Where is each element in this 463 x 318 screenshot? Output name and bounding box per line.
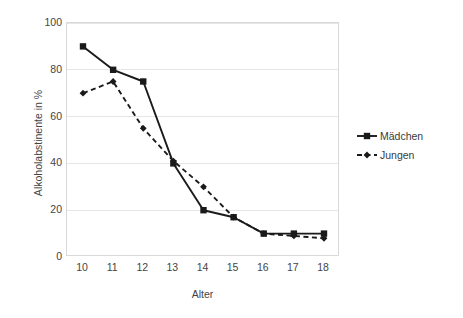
legend-label: Mädchen: [380, 130, 423, 142]
data-point-marker: [200, 207, 206, 213]
x-axis-tick-label: 12: [129, 262, 155, 273]
y-axis-tick-label: 100: [32, 17, 62, 28]
x-axis-tick-label: 16: [250, 262, 276, 273]
legend-marker-diamond-icon: [356, 149, 378, 161]
series-line: [83, 82, 324, 239]
legend-item-jungen[interactable]: Jungen: [356, 145, 460, 164]
data-point-marker: [140, 125, 147, 132]
x-axis-tick-label: 11: [99, 262, 125, 273]
y-axis-tick-label: 60: [32, 110, 62, 121]
data-point-marker: [364, 132, 370, 138]
y-axis-tick-label: 80: [32, 64, 62, 75]
data-point-marker: [110, 67, 116, 73]
series-jungen: [80, 78, 328, 242]
data-point-marker: [80, 90, 87, 97]
x-axis-title: Alter: [66, 288, 339, 300]
x-axis-tick-label: 17: [280, 262, 306, 273]
x-axis-tick-label: 15: [220, 262, 246, 273]
legend-item-mädchen[interactable]: Mädchen: [356, 126, 460, 145]
series-line: [83, 46, 324, 233]
data-point-marker: [80, 43, 86, 49]
x-axis-tick-label: 13: [159, 262, 185, 273]
data-point-marker: [200, 183, 207, 190]
y-axis-tick-labels: 020406080100: [32, 0, 62, 318]
line-chart: Alkoholabstinente in % 020406080100 1011…: [0, 0, 463, 318]
data-point-marker: [364, 151, 371, 158]
chart-legend: MädchenJungen: [356, 126, 460, 164]
plot-area: [66, 22, 339, 256]
x-axis-tick-label: 10: [69, 262, 95, 273]
series-mädchen: [80, 43, 327, 237]
data-point-marker: [140, 78, 146, 84]
plot-svg: [67, 23, 340, 257]
legend-label: Jungen: [380, 149, 414, 161]
x-axis-tick-label: 14: [190, 262, 216, 273]
x-axis-tick-label: 18: [310, 262, 336, 273]
y-axis-tick-label: 40: [32, 157, 62, 168]
x-axis-tick-labels: 101112131415161718: [66, 262, 339, 278]
y-axis-tick-label: 0: [32, 251, 62, 262]
y-axis-tick-label: 20: [32, 204, 62, 215]
legend-marker-square-icon: [356, 130, 378, 142]
